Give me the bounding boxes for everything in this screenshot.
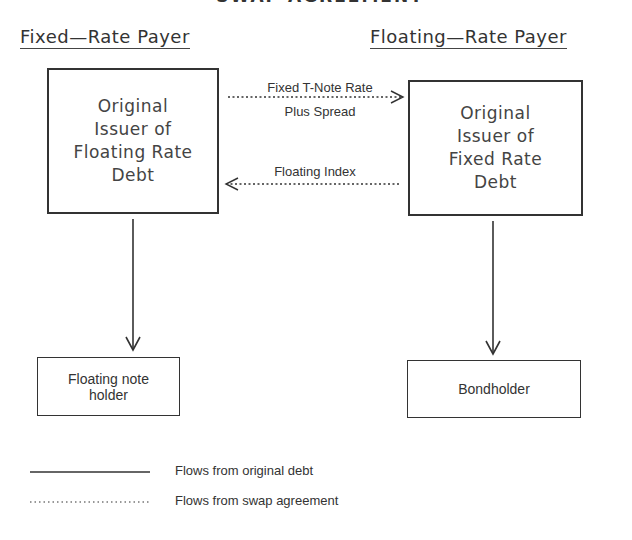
left-original-debt-arrow bbox=[126, 219, 140, 350]
fixed-rate-swap-arrow bbox=[228, 91, 403, 103]
floating-index-swap-arrow bbox=[226, 178, 400, 190]
connector-lines bbox=[0, 0, 632, 540]
legend-dotted-label: Flows from swap agreement bbox=[175, 493, 338, 508]
right-original-debt-arrow bbox=[486, 221, 500, 354]
legend-solid-label: Flows from original debt bbox=[175, 463, 313, 478]
